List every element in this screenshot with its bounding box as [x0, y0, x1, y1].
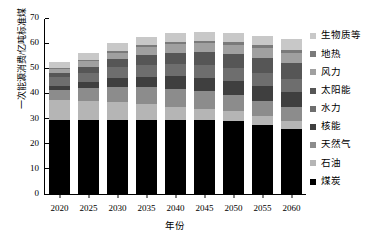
x-tick-mark — [262, 194, 263, 198]
bar-segment — [136, 77, 157, 88]
y-tick-label: 20 — [30, 138, 39, 148]
legend-item[interactable]: 核能 — [310, 118, 380, 136]
legend-item[interactable]: 风力 — [310, 63, 380, 81]
bar-segment — [165, 76, 186, 89]
x-tick-label: 2025 — [80, 203, 98, 213]
y-tick-label: 70 — [30, 12, 39, 22]
bar-segment — [78, 88, 99, 101]
legend-swatch-icon — [310, 88, 316, 94]
bar-series-container: 202020252030203520402045205020552060 — [45, 19, 306, 194]
bar-segment — [165, 120, 186, 194]
legend-item[interactable]: 水力 — [310, 100, 380, 118]
x-tick-mark — [291, 194, 292, 198]
bar-segment — [136, 37, 157, 45]
y-tick-label: 50 — [30, 62, 39, 72]
legend-item[interactable]: 煤炭 — [310, 173, 380, 191]
bar-segment — [49, 120, 70, 194]
bar-segment — [107, 78, 128, 87]
bar-segment — [78, 101, 99, 120]
bar-segment — [107, 43, 128, 50]
bar-segment — [136, 87, 157, 104]
bar-segment — [165, 44, 186, 52]
legend-item-label: 煤炭 — [321, 177, 341, 187]
legend-swatch-icon — [310, 106, 316, 112]
legend-item-label: 地热 — [321, 50, 341, 60]
bar-segment — [281, 107, 302, 121]
bar-segment — [281, 53, 302, 63]
bar-segment — [78, 73, 99, 83]
bar-segment — [107, 102, 128, 120]
legend-swatch-icon — [310, 124, 316, 130]
bar-segment — [194, 109, 215, 121]
x-tick-mark — [175, 194, 176, 198]
legend-item[interactable]: 太阳能 — [310, 82, 380, 100]
bar-segment — [165, 89, 186, 107]
x-tick-mark — [59, 194, 60, 198]
legend-item[interactable]: 天然气 — [310, 136, 380, 154]
bar-segment — [194, 52, 215, 65]
bar-segment — [107, 59, 128, 67]
legend-item[interactable]: 石油 — [310, 154, 380, 172]
bar-segment — [281, 121, 302, 129]
bar-segment — [194, 120, 215, 194]
bar-segment — [136, 47, 157, 55]
bar-segment — [252, 125, 273, 194]
y-tick-label: 10 — [30, 163, 39, 173]
legend-item[interactable]: 地热 — [310, 45, 380, 63]
y-axis-title: 一次能源消费/亿吨标准煤 — [15, 0, 28, 124]
bar-segment — [223, 121, 244, 194]
bar-column: 2035 — [136, 19, 157, 194]
bar-segment — [194, 91, 215, 109]
bar-segment — [165, 33, 186, 42]
x-tick-mark — [117, 194, 118, 198]
y-tick-label: 30 — [30, 113, 39, 123]
legend-item-label: 水力 — [321, 104, 341, 114]
bar-segment — [252, 116, 273, 125]
legend-item-label: 生物质等 — [321, 31, 361, 41]
bar-segment — [49, 77, 70, 86]
bar-segment — [252, 86, 273, 101]
plot-area: 010203040506070 202020252030203520402045… — [44, 19, 306, 195]
bar-segment — [281, 39, 302, 49]
bar-segment — [223, 33, 244, 42]
x-tick-label: 2035 — [138, 203, 156, 213]
x-tick-mark — [233, 194, 234, 198]
legend-item-label: 天然气 — [321, 140, 351, 150]
bar-segment — [223, 45, 244, 54]
x-tick-label: 2060 — [283, 203, 301, 213]
bar-segment — [165, 53, 186, 65]
bar-segment — [136, 104, 157, 120]
bar-column: 2060 — [281, 19, 302, 194]
legend-item-label: 石油 — [321, 159, 341, 169]
bar-column: 2045 — [194, 19, 215, 194]
bar-column: 2040 — [165, 19, 186, 194]
bar-segment — [252, 58, 273, 73]
bar-segment — [194, 32, 215, 41]
x-tick-label: 2030 — [109, 203, 127, 213]
bar-segment — [78, 120, 99, 194]
bar-segment — [107, 87, 128, 103]
legend-item-label: 风力 — [321, 68, 341, 78]
y-tick-label: 0 — [35, 188, 40, 198]
bar-segment — [223, 81, 244, 95]
bar-segment — [136, 120, 157, 194]
bar-segment — [281, 63, 302, 79]
bar-segment — [223, 95, 244, 111]
legend-swatch-icon — [310, 179, 316, 185]
bar-segment — [281, 92, 302, 107]
bar-column: 2025 — [78, 19, 99, 194]
legend-item[interactable]: 生物质等 — [310, 27, 380, 45]
bar-segment — [194, 78, 215, 92]
legend-item-label: 核能 — [321, 122, 341, 132]
x-tick-label: 2050 — [225, 203, 243, 213]
bar-segment — [136, 65, 157, 77]
bar-column: 2030 — [107, 19, 128, 194]
x-tick-mark — [204, 194, 205, 198]
x-tick-mark — [88, 194, 89, 198]
legend-swatch-icon — [310, 69, 316, 75]
bar-column: 2050 — [223, 19, 244, 194]
bar-segment — [252, 73, 273, 86]
bar-segment — [107, 120, 128, 194]
bar-column: 2020 — [49, 19, 70, 194]
legend-swatch-icon — [310, 142, 316, 148]
